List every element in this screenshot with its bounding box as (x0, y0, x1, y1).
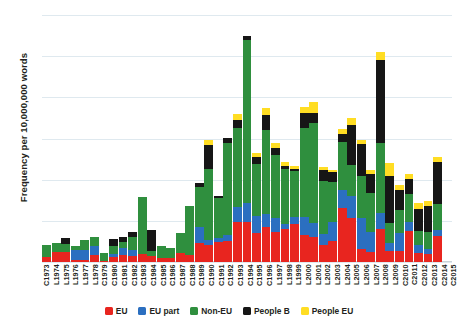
bar-segment-eu-part (376, 213, 385, 229)
bar-C1990[interactable] (204, 15, 213, 262)
legend-item-people-eu[interactable]: People EU (301, 306, 353, 316)
bar-segment-eu (243, 222, 252, 262)
bar-L1999[interactable] (290, 15, 299, 262)
bar-segment-non-eu (281, 169, 290, 224)
bar-L1978[interactable] (90, 15, 99, 262)
bar-L2002[interactable] (319, 15, 328, 262)
bar-L2007[interactable] (366, 15, 375, 262)
legend-item-non-eu[interactable]: Non-EU (190, 306, 232, 316)
bar-segment-people-b (395, 190, 404, 210)
bar-C1993[interactable] (233, 15, 242, 262)
bar-segment-eu (433, 236, 442, 262)
bar-C1984[interactable] (147, 15, 156, 262)
bar-segment-eu (214, 242, 223, 262)
bar-segment-non-eu (233, 128, 242, 207)
x-axis-label-L1975: L1975 (62, 264, 71, 300)
bar-C2014[interactable] (433, 15, 442, 262)
bar-segment-non-eu (252, 164, 261, 216)
bar-segment-eu (414, 253, 423, 262)
bar-C2010[interactable] (395, 15, 404, 262)
bar-L2009[interactable] (385, 15, 394, 262)
bar-C1987[interactable] (176, 15, 185, 262)
bar-segment-non-eu (405, 194, 414, 222)
bar-segment-people-b (319, 170, 328, 182)
bar-L2000[interactable] (300, 15, 309, 262)
bar-L1977[interactable] (80, 15, 89, 262)
bar-L1976[interactable] (71, 15, 80, 262)
bar-C1991[interactable] (214, 15, 223, 262)
bar-segment-people-eu (309, 102, 318, 114)
bar-segment-non-eu (433, 204, 442, 230)
bar-C1992[interactable] (223, 15, 232, 262)
bar-segment-eu (147, 256, 156, 262)
legend-item-eu-part[interactable]: EU part (138, 306, 179, 316)
bar-segment-people-b (433, 162, 442, 203)
bar-C1985[interactable] (157, 15, 166, 262)
bar-segment-non-eu (414, 231, 423, 245)
bar-segment-people-eu (376, 52, 385, 60)
legend-label: People B (254, 306, 290, 316)
bar-C1989[interactable] (195, 15, 204, 262)
bar-C1981[interactable] (119, 15, 128, 262)
bar-C2012[interactable] (414, 15, 423, 262)
bar-segment-eu (338, 208, 347, 262)
bar-segment-people-b (366, 174, 375, 193)
bar-segment-eu-part (357, 218, 366, 248)
bar-C2013[interactable] (424, 15, 433, 262)
bar-L1997[interactable] (271, 15, 280, 262)
bar-L1998[interactable] (281, 15, 290, 262)
bar-L2005[interactable] (347, 15, 356, 262)
x-axis-label-L1999: L1999 (294, 264, 303, 300)
bar-segment-eu (204, 245, 213, 262)
bar-segment-eu (119, 255, 128, 262)
x-axis-label-C1979: C1979 (100, 264, 109, 300)
bar-C1988[interactable] (185, 15, 194, 262)
bar-L2004[interactable] (338, 15, 347, 262)
bar-segment-people-b (233, 120, 242, 128)
bar-L2003[interactable] (328, 15, 337, 262)
bar-C1995[interactable] (252, 15, 261, 262)
bar-segment-eu-part (366, 232, 375, 252)
bar-C1980[interactable] (109, 15, 118, 262)
bar-L2008[interactable] (376, 15, 385, 262)
bar-C1986[interactable] (166, 15, 175, 262)
bar-L2006[interactable] (357, 15, 366, 262)
bar-segment-eu (233, 222, 242, 262)
bar-C2011[interactable] (405, 15, 414, 262)
bar-segment-non-eu (204, 169, 213, 240)
plot-area: 0102030405060 (42, 15, 452, 262)
bar-segment-eu-part (405, 222, 414, 231)
legend-item-people-b[interactable]: People B (243, 306, 290, 316)
bar-segment-non-eu (214, 198, 223, 238)
bar-segment-eu (319, 245, 328, 262)
x-axis-label-L1978: L1978 (91, 264, 100, 300)
bar-segment-eu-part (300, 217, 309, 235)
bar-L1975[interactable] (61, 15, 70, 262)
bar-C1983[interactable] (138, 15, 147, 262)
bar-L1974[interactable] (52, 15, 61, 262)
bar-C1996[interactable] (262, 15, 271, 262)
x-axis-label-L2001: L2001 (314, 264, 323, 300)
x-axis-label-C1986: C1986 (168, 264, 177, 300)
x-axis-label-C1990: C1990 (207, 264, 216, 300)
bar-C1982[interactable] (128, 15, 137, 262)
bar-segment-eu (61, 252, 70, 262)
bar-segment-eu-part (195, 227, 204, 243)
chart-legend: EUEU partNon-EUPeople BPeople EU (0, 306, 458, 316)
bar-segment-non-eu (290, 171, 299, 216)
bar-L2001[interactable] (309, 15, 318, 262)
x-axis-label-L2000: L2000 (304, 264, 313, 300)
bar-segment-non-eu (42, 245, 51, 257)
legend-item-eu[interactable]: EU (105, 306, 128, 316)
bar-segment-eu (376, 229, 385, 262)
bar-C2015[interactable] (443, 15, 452, 262)
bar-C1994[interactable] (243, 15, 252, 262)
bar-segment-non-eu (309, 123, 318, 223)
bar-segment-eu (166, 258, 175, 262)
bar-segment-eu (347, 218, 356, 262)
bar-C1973[interactable] (42, 15, 51, 262)
bar-segment-non-eu (185, 206, 194, 255)
legend-label: EU (116, 306, 128, 316)
bar-C1979[interactable] (100, 15, 109, 262)
bar-segment-people-eu (347, 118, 356, 125)
